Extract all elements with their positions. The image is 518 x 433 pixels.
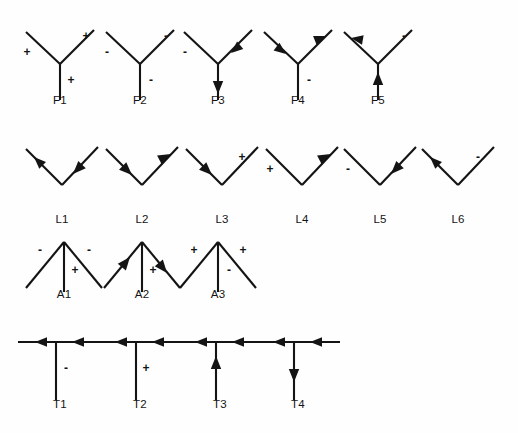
junction-drawing-f1: +++ — [14, 14, 106, 106]
junction-figure-f3: - — [172, 14, 264, 106]
junction-figure-f1: +++ — [14, 14, 106, 106]
junction-label-f5: F5 — [332, 94, 424, 106]
junction-figure-l2 — [96, 133, 188, 225]
junction-drawing-l2 — [96, 133, 188, 225]
minus-sign: - — [164, 29, 168, 43]
minus-sign: - — [346, 162, 350, 176]
junction-label-l6: L6 — [412, 213, 504, 225]
junction-label-t2: T2 — [94, 398, 186, 410]
plus-sign: + — [266, 162, 273, 176]
junction-label-l3: L3 — [176, 213, 268, 225]
plus-sign: + — [239, 243, 246, 257]
junction-drawing-f5: - — [332, 14, 424, 106]
minus-sign: - — [149, 73, 153, 87]
junction-figure-f4: - — [252, 14, 344, 106]
junction-label-t4: T4 — [252, 398, 344, 410]
plus-sign: + — [149, 263, 156, 277]
junction-label-a3: A3 — [172, 288, 264, 300]
junction-drawing-f4: - — [252, 14, 344, 106]
plus-sign: + — [71, 263, 78, 277]
junction-drawing-l1 — [16, 133, 108, 225]
junction-label-f1: F1 — [14, 94, 106, 106]
junction-label-l1: L1 — [16, 213, 108, 225]
plus-sign: + — [82, 29, 89, 43]
junction-drawing-a3: ++- — [172, 226, 264, 318]
minus-sign: - — [87, 243, 91, 257]
junction-drawing-l3: + — [176, 133, 268, 225]
minus-sign: - — [476, 150, 480, 164]
junction-figure-a3: ++- — [172, 226, 264, 318]
plus-sign: + — [238, 150, 245, 164]
plus-sign: + — [190, 243, 197, 257]
junction-drawing-l6: - — [412, 133, 504, 225]
minus-sign: - — [307, 73, 311, 87]
junction-figure-l6: - — [412, 133, 504, 225]
minus-sign: - — [38, 243, 42, 257]
minus-sign: - — [227, 263, 231, 277]
junction-figure-l1 — [16, 133, 108, 225]
junction-label-t1: T1 — [14, 398, 106, 410]
minus-sign: - — [183, 45, 187, 59]
plus-sign: + — [142, 361, 149, 375]
junction-label-l2: L2 — [96, 213, 188, 225]
diagram-sheet: +++F1---F2-F3-F4-F5L1L2+L3+L4-L5-L6--+A1… — [0, 0, 518, 433]
plus-sign: + — [23, 45, 30, 59]
minus-sign: - — [402, 29, 406, 43]
minus-sign: - — [105, 45, 109, 59]
junction-drawing-f3: - — [172, 14, 264, 106]
plus-sign: + — [67, 73, 74, 87]
junction-label-f4: F4 — [252, 94, 344, 106]
junction-label-f3: F3 — [172, 94, 264, 106]
junction-figure-l3: + — [176, 133, 268, 225]
junction-figure-f5: - — [332, 14, 424, 106]
minus-sign: - — [64, 361, 68, 375]
